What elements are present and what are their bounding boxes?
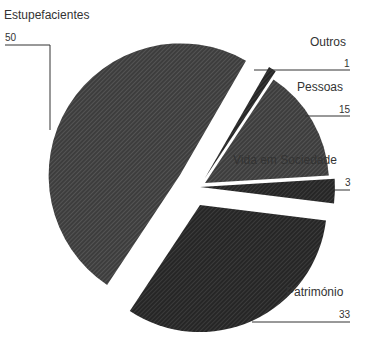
label-estupefacientes: Estupefacientes [4,8,89,22]
leader-estupefacientes [5,45,50,130]
value-outros: 1 [344,58,350,69]
label-pessoas: Pessoas [297,80,343,94]
slice-vida-em-sociedade [200,179,335,204]
value-patrimonio: 33 [339,309,350,320]
value-vida-em-sociedade: 3 [345,177,351,188]
value-pessoas: 15 [339,104,350,115]
label-outros: Outros [310,35,346,49]
label-patrimonio: Património [286,285,343,299]
slice-patrimonio [130,205,326,332]
label-vida-em-sociedade: Vida em Sociedade [233,153,337,167]
value-estupefacientes: 50 [5,32,16,43]
